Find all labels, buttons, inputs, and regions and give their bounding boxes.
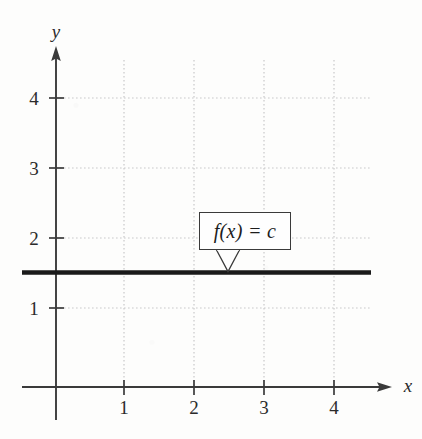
callout-pointer [216, 249, 240, 272]
y-tick-label-1: 1 [22, 299, 46, 318]
x-tick-label-2: 2 [182, 398, 206, 417]
horizontal-gridlines [56, 98, 372, 308]
function-callout-box: f(x) = c [199, 212, 291, 250]
constant-function-graph-figure: f(x) = c 1 2 3 4 1 2 3 4 y x [0, 0, 422, 439]
x-axis [22, 382, 392, 392]
y-tick-label-4: 4 [22, 89, 46, 108]
y-tick-label-3: 3 [22, 159, 46, 178]
x-tick-label-1: 1 [112, 398, 136, 417]
x-axis-name-label: x [398, 376, 418, 395]
y-tick-label-2: 2 [22, 229, 46, 248]
y-axis [51, 46, 61, 420]
x-tick-label-4: 4 [322, 398, 346, 417]
y-axis-name-label: y [46, 22, 66, 41]
x-tick-label-3: 3 [252, 398, 276, 417]
function-callout-label: f(x) = c [214, 220, 277, 243]
